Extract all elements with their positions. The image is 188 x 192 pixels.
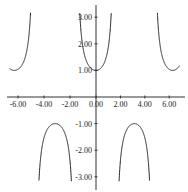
y-tick-label: -2.00 <box>75 146 92 155</box>
sec-branch <box>39 124 71 182</box>
sec-branch <box>157 13 179 71</box>
x-tick-label: 6.00 <box>162 100 176 109</box>
x-ticks: -6.00-4.00-2.000.002.004.006.00 <box>10 96 177 110</box>
y-tick-label: 2.00 <box>78 40 92 49</box>
y-tick-label: -1.00 <box>75 120 92 129</box>
sec-function-plot: -6.00-4.00-2.000.002.004.006.00 3.002.00… <box>0 0 188 192</box>
x-tick-label: 2.00 <box>113 100 127 109</box>
x-tick-label: -6.00 <box>10 100 27 109</box>
x-tick-label: -2.00 <box>62 100 79 109</box>
x-tick-label: 4.00 <box>138 100 152 109</box>
y-tick-label: -3.00 <box>75 173 92 182</box>
x-tick-label: 0.00 <box>89 100 103 109</box>
x-tick-label: -4.00 <box>36 100 53 109</box>
sec-branch <box>119 124 149 182</box>
sec-branch <box>10 13 31 71</box>
